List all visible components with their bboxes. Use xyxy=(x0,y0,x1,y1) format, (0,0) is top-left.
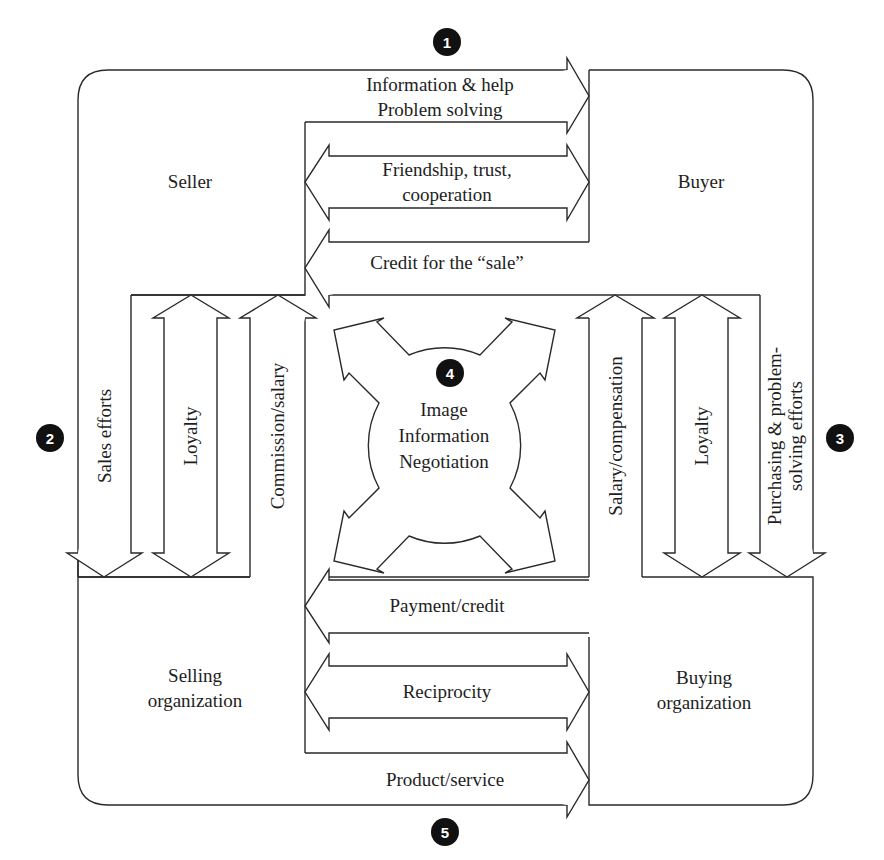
label-payment-credit: Payment/credit xyxy=(389,595,505,616)
label-sales-efforts: Sales efforts xyxy=(94,389,115,483)
buying-org-box xyxy=(589,577,813,805)
arrow-friendship-trust xyxy=(305,145,589,220)
svg-text:5: 5 xyxy=(441,824,449,841)
label-seller: Seller xyxy=(168,171,213,192)
label-buying-org-1: Buying xyxy=(676,667,732,688)
label-friendship-1: Friendship, trust, xyxy=(382,159,511,180)
label-purchasing-2: solving efforts xyxy=(785,381,806,491)
label-information-help: Information & help xyxy=(366,74,514,95)
label-buying-org-2: organization xyxy=(657,692,752,713)
label-selling-org-1: Selling xyxy=(168,665,222,686)
label-image: Image xyxy=(420,399,467,420)
label-loyalty-seller: Loyalty xyxy=(180,406,201,466)
badge-5: 5 xyxy=(431,818,459,846)
label-purchasing-1: Purchasing & problem- xyxy=(764,347,785,525)
svg-text:4: 4 xyxy=(446,365,455,382)
label-selling-org-2: organization xyxy=(148,690,243,711)
label-loyalty-buyer: Loyalty xyxy=(691,406,712,466)
arrow-salary-compensation xyxy=(577,295,654,318)
badge-2: 2 xyxy=(36,424,64,452)
label-friendship-2: cooperation xyxy=(402,184,492,205)
label-commission-salary: Commission/salary xyxy=(267,362,288,509)
badge-1: 1 xyxy=(433,28,461,56)
badge-3: 3 xyxy=(826,424,854,452)
arrow-information-help xyxy=(305,58,589,133)
label-buyer: Buyer xyxy=(678,171,725,192)
label-product-service: Product/service xyxy=(386,769,504,790)
label-negotiation: Negotiation xyxy=(399,451,489,472)
label-credit-sale: Credit for the “sale” xyxy=(370,252,524,273)
label-information: Information xyxy=(399,425,490,446)
label-reciprocity: Reciprocity xyxy=(403,681,492,702)
badge-4: 4 xyxy=(436,359,464,387)
label-salary-compensation: Salary/compensation xyxy=(605,356,626,516)
label-problem-solving: Problem solving xyxy=(377,99,503,120)
svg-text:2: 2 xyxy=(46,430,54,447)
diagram-canvas: Seller Buyer Selling organization Buying… xyxy=(0,0,884,860)
svg-text:1: 1 xyxy=(443,34,451,51)
svg-text:3: 3 xyxy=(836,430,844,447)
